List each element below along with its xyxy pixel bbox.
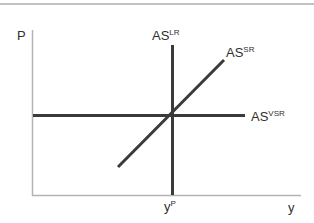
as-vsr-label-sup: VSR — [268, 109, 285, 118]
as-lr-label: ASLR — [152, 28, 180, 43]
as-vsr-label-base: AS — [251, 109, 269, 124]
as-lr-label-sup: LR — [169, 28, 179, 37]
as-curves-canvas: P y yP ASLR ASSR ASVSR — [0, 0, 314, 223]
as-curves-figure: P y yP ASLR ASSR ASVSR — [0, 0, 314, 223]
potential-output-tick-label: yP — [164, 199, 176, 214]
as-sr-label: ASSR — [226, 45, 255, 60]
output-axis-label: y — [288, 200, 295, 215]
as-sr-label-sup: SR — [243, 45, 254, 54]
price-axis-label: P — [17, 28, 26, 43]
potential-output-sup: P — [171, 199, 176, 208]
as-sr-label-base: AS — [226, 45, 244, 60]
as-vsr-label: ASVSR — [251, 109, 285, 124]
as-lr-label-base: AS — [152, 28, 170, 43]
